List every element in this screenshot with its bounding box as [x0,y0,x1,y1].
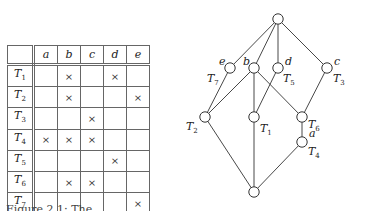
lattice-edge [254,142,302,192]
lattice-edge [302,68,327,117]
label-T1: T1 [260,123,272,139]
label-T7: T7 [207,73,219,89]
label-T4: T4 [308,146,320,162]
label-d: d [285,56,292,67]
lattice-edge [205,117,254,192]
lattice-node-e [225,63,235,73]
lattice-node-b [249,63,259,73]
lattice-node-T6 [297,112,307,122]
lattice-node-T1 [249,112,259,122]
lattice-node-c [322,63,332,73]
lattice-node-top [273,14,283,24]
lattice-node-T2 [200,112,210,122]
lattice-node-d [273,63,283,73]
label-c: c [334,56,340,67]
figure-caption: Figure 2.1: The ... [6,203,106,211]
label-e: e [219,56,226,67]
lattice-diagram [0,0,387,211]
label-T2: T2 [186,121,198,137]
label-T3: T3 [333,73,345,89]
lattice-edge [254,68,278,117]
lattice-node-T4 [297,137,307,147]
lattice-node-bottom [249,187,259,197]
label-a: a [309,128,316,139]
label-T5: T5 [283,73,295,89]
label-b: b [243,56,250,67]
lattice-edge [230,19,278,68]
lattice-edge [254,19,278,68]
